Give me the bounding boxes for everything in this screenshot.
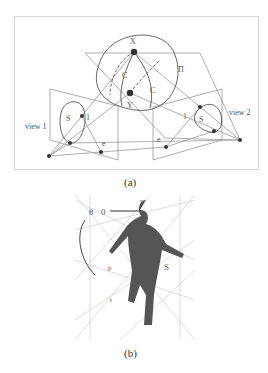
label-l2: l — [184, 112, 187, 121]
label-t: t — [110, 296, 112, 304]
label-S1: S — [66, 114, 70, 123]
caption-a: (a) — [124, 176, 136, 188]
label-e12: e — [102, 139, 106, 148]
label-C1: C — [150, 86, 155, 95]
label-v: v — [140, 198, 143, 204]
label-Pi: Π — [178, 65, 184, 74]
label-zero: 0 — [101, 207, 106, 217]
label-X: X — [130, 37, 136, 46]
label-view1: view 1 — [25, 122, 47, 131]
label-p: p — [108, 264, 112, 272]
label-Y: Y — [127, 101, 133, 110]
label-S: S — [164, 262, 169, 272]
label-C2: C — [122, 71, 127, 80]
label-view2: view 2 — [229, 108, 251, 117]
caption-b: (b) — [124, 347, 137, 359]
label-S2: S — [199, 115, 203, 124]
label-theta: θ — [89, 207, 93, 217]
label-l1: l — [87, 113, 90, 122]
label-e21: e — [157, 135, 161, 144]
